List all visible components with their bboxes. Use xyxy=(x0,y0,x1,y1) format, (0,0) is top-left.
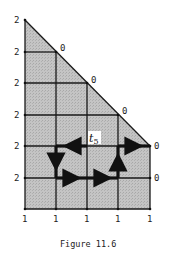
right-label: 0 xyxy=(154,173,159,183)
left-label: 2 xyxy=(14,110,19,120)
left-label: 2 xyxy=(14,78,19,88)
diagonal-label: 0 xyxy=(91,75,96,85)
bottom-label: 1 xyxy=(147,214,152,224)
left-label: 2 xyxy=(14,141,19,151)
diagonal-label: 0 xyxy=(60,43,65,53)
left-label: 2 xyxy=(14,173,19,183)
bottom-label: 1 xyxy=(84,214,89,224)
diagonal-label: 0 xyxy=(154,141,159,151)
figure-caption: Figure 11.6 xyxy=(60,239,116,249)
left-axis-labels: 2 2 2 2 2 2 xyxy=(14,15,19,183)
figure-diagram: t5 2 2 2 2 2 2 1 1 1 1 1 0 0 0 0 0 Figur… xyxy=(0,0,171,253)
diagonal-label: 0 xyxy=(122,106,127,116)
bottom-label: 1 xyxy=(115,214,120,224)
left-label: 2 xyxy=(14,47,19,57)
bottom-label: 1 xyxy=(22,214,27,224)
bottom-label: 1 xyxy=(53,214,58,224)
left-label: 2 xyxy=(14,15,19,25)
bottom-axis-labels: 1 1 1 1 1 xyxy=(22,214,152,224)
